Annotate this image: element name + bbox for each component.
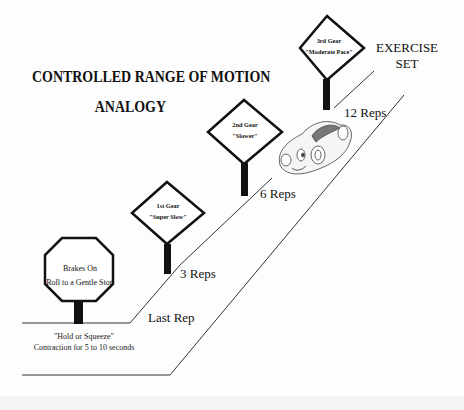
diagram-title: CONTROLLED RANGE OF MOTION ANALOGY — [32, 62, 196, 122]
gear2-sign-line-2: "Slower" — [217, 131, 273, 142]
title-line-2: ANALOGY — [32, 92, 229, 122]
gear3-sign-icon — [300, 16, 364, 110]
gear2-sign-text: 2nd Gear "Slower" — [217, 120, 273, 142]
exercise-set-label: EXERCISE SET — [372, 40, 442, 72]
gear1-sign-line-1: 1st Gear — [140, 201, 196, 212]
hold-note-line-1: "Hold or Squeeze" — [14, 331, 154, 342]
brakes-sign-text: Brakes On Roll to a Gentle Stop — [40, 262, 120, 290]
hold-squeeze-note: "Hold or Squeeze" Contraction for 5 to 1… — [14, 331, 154, 353]
gear1-sign-text: 1st Gear "Super Slow" — [140, 201, 196, 223]
hold-note-line-2: Contraction for 5 to 10 seconds — [14, 342, 154, 353]
gear1-sign-line-2: "Super Slow" — [140, 212, 196, 223]
brakes-sign-line-1: Brakes On — [40, 262, 120, 276]
twelve-reps-label: 12 Reps — [344, 105, 386, 121]
three-reps-label: 3 Reps — [180, 266, 216, 282]
gear2-sign-line-1: 2nd Gear — [217, 120, 273, 131]
bottom-margin-band — [0, 396, 464, 410]
gear3-sign-line-2: "Moderate Pace" — [301, 47, 357, 58]
brakes-sign-line-2: Roll to a Gentle Stop — [40, 276, 120, 290]
gear1-sign-icon — [132, 182, 204, 274]
gear3-sign-text: 3rd Gear "Moderate Pace" — [301, 36, 357, 58]
diagram-canvas: CONTROLLED RANGE OF MOTION ANALOGY EXERC… — [0, 0, 464, 410]
exercise-set-line-2: SET — [372, 56, 442, 72]
cartoon-car-icon — [279, 122, 351, 174]
last-rep-label: Last Rep — [148, 310, 195, 326]
six-reps-label: 6 Reps — [260, 186, 296, 202]
title-line-1: CONTROLLED RANGE OF MOTION — [32, 62, 229, 92]
exercise-set-line-1: EXERCISE — [372, 40, 442, 56]
inner-road-line-top — [334, 71, 374, 108]
gear3-sign-line-1: 3rd Gear — [301, 36, 357, 47]
